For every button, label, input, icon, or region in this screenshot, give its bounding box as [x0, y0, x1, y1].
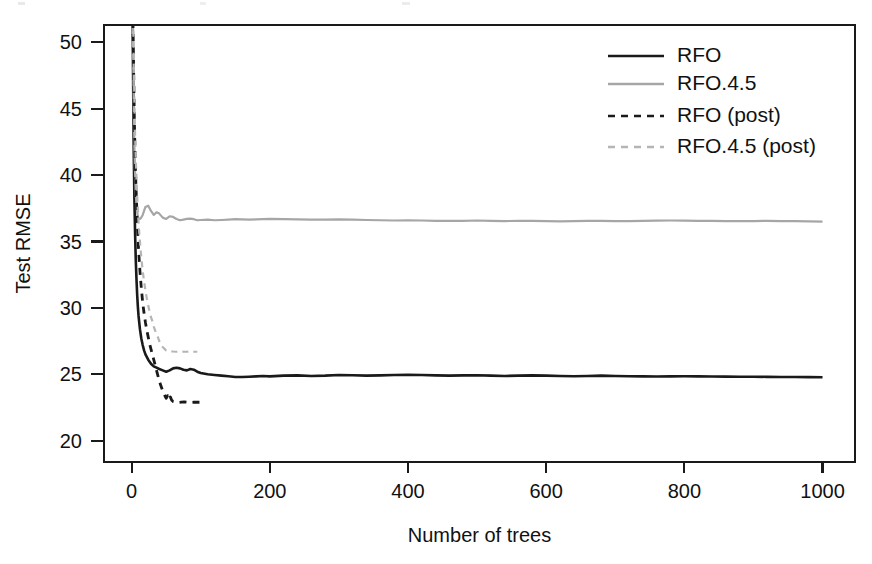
- y-tick-label: 20: [60, 430, 82, 452]
- x-tick-label: 1000: [800, 480, 845, 502]
- legend-label: RFO (post): [677, 103, 781, 126]
- x-tick-label: 400: [391, 480, 424, 502]
- legend-label: RFO.4.5: [677, 71, 756, 94]
- y-tick-label: 25: [60, 363, 82, 385]
- y-tick-label: 50: [60, 31, 82, 53]
- y-tick-label: 30: [60, 297, 82, 319]
- legend-label: RFO.4.5 (post): [677, 134, 816, 157]
- x-tick-label: 600: [529, 480, 562, 502]
- chart-figure: 02004006008001000 20253035404550 Number …: [0, 0, 872, 564]
- y-tick-label: 45: [60, 98, 82, 120]
- y-tick-label: 35: [60, 231, 82, 253]
- x-axis-title: Number of trees: [408, 524, 551, 546]
- x-tick-label: 800: [668, 480, 701, 502]
- x-tick-label: 0: [126, 480, 137, 502]
- x-tick-label: 200: [253, 480, 286, 502]
- y-tick-label: 40: [60, 164, 82, 186]
- y-axis-title: Test RMSE: [12, 193, 34, 293]
- legend-label: RFO: [677, 43, 721, 66]
